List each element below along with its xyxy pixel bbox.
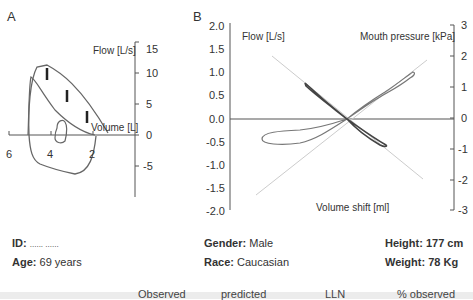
table-header-predicted: predicted (221, 288, 266, 300)
chart-b-left-tick: 1.0 (209, 66, 224, 78)
chart-b-pressure-label: Mouth pressure [kPa] (360, 31, 455, 42)
chart-b-left-tick: 0.0 (209, 113, 224, 125)
chart-b-left-tick: -0.5 (206, 136, 225, 148)
chart-b-left-tick: -1.5 (206, 182, 225, 194)
patient-id-value: ...... ...... (30, 240, 59, 249)
patient-height-label: Height: (385, 237, 423, 249)
chart-b-left-tick: 0.5 (209, 89, 224, 101)
chart-b-left-tick: -1.0 (206, 159, 225, 171)
chart-b-flow-label: Flow [L/s] (242, 31, 285, 42)
chart-b-right-tick: 2 (461, 50, 467, 62)
patient-age: Age: 69 years (12, 256, 82, 268)
chart-b-left-tick: 1.5 (209, 43, 224, 55)
chart-b-right-tick: 1 (461, 81, 467, 93)
chart-b-right-tick: 3 (461, 19, 467, 31)
chart-b-right-tick: -1 (458, 143, 468, 155)
chart-b-right-tick: -2 (458, 174, 468, 186)
patient-id-label: ID: (12, 237, 27, 249)
table-header-lln: LLN (325, 288, 345, 300)
patient-gender-label: Gender: (204, 237, 246, 249)
chart-b-left-tick: 2.0 (209, 20, 224, 32)
table-header-percent-observed: % observed (397, 288, 455, 300)
patient-id: ID: ...... ...... (12, 237, 59, 249)
chart-b-volume-label: Volume shift [ml] (316, 202, 389, 213)
patient-race-label: Race: (204, 256, 234, 268)
patient-weight-value: 78 Kg (428, 256, 458, 268)
patient-height: Height: 177 cm (385, 237, 463, 249)
patient-age-label: Age: (12, 256, 36, 268)
patient-age-value: 69 years (40, 256, 82, 268)
patient-weight: Weight: 78 Kg (385, 256, 458, 268)
patient-height-value: 177 cm (426, 237, 463, 249)
patient-race: Race: Caucasian (204, 256, 289, 268)
patient-weight-label: Weight: (385, 256, 425, 268)
patient-gender-value: Male (249, 237, 273, 249)
patient-race-value: Caucasian (237, 256, 289, 268)
chart-b-left-tick: -2.0 (206, 205, 225, 217)
table-header-observed: Observed (138, 288, 186, 300)
patient-gender: Gender: Male (204, 237, 273, 249)
chart-b-right-tick: 0 (461, 112, 467, 124)
chart-b-right-tick: -3 (458, 204, 468, 216)
